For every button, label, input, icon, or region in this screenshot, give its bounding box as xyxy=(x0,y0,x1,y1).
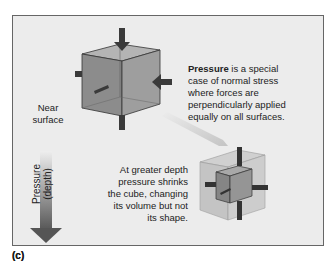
pressure-depth-axis-label: Pressure (depth) xyxy=(31,154,53,214)
pressure-line4: perpendicularly applied xyxy=(188,99,318,111)
depth-line3: the cube, changing xyxy=(68,188,188,200)
pressure-line2: case of normal stress xyxy=(188,75,318,87)
pressure-definition: Pressure is a special case of normal str… xyxy=(188,63,318,123)
depth-line2: pressure shrinks xyxy=(68,176,188,188)
pressure-line5: equally on all surfaces. xyxy=(188,111,318,123)
figure-panel-label-c: (c) xyxy=(12,250,24,261)
large-cube xyxy=(82,44,160,116)
near-label-line1: Near xyxy=(26,102,70,114)
near-label-line2: surface xyxy=(26,114,70,126)
pressure-line1-rest: is a special xyxy=(229,63,279,74)
depth-line5: its shape. xyxy=(68,212,188,224)
pressure-line3: where forces are xyxy=(188,87,318,99)
near-surface-label: Near surface xyxy=(26,102,70,126)
diagram-graphics xyxy=(0,0,332,266)
depth-line4: its volume but not xyxy=(68,200,188,212)
pressure-term: Pressure xyxy=(188,63,229,74)
depth-line1: At greater depth xyxy=(68,164,188,176)
depth-explanation: At greater depth pressure shrinks the cu… xyxy=(68,164,188,224)
